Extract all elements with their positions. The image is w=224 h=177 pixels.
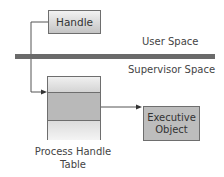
process-handle-table-caption: Process Handle Table: [20, 145, 126, 171]
user-supervisor-separator: [15, 54, 215, 59]
caption-line2: Table: [20, 158, 126, 171]
table-row: [48, 121, 100, 140]
supervisor-space-label: Supervisor Space: [128, 64, 215, 75]
handle-label: Handle: [56, 16, 93, 28]
executive-object-box: Executive Object: [143, 106, 200, 141]
executive-object-line1: Executive: [147, 112, 196, 124]
handle-box: Handle: [48, 10, 101, 34]
table-row: [48, 77, 100, 93]
caption-line1: Process Handle: [20, 145, 126, 158]
user-space-label: User Space: [142, 36, 198, 47]
executive-object-line2: Object: [155, 124, 188, 136]
process-handle-table: [47, 76, 101, 140]
table-row-handle-entry: [48, 93, 100, 121]
